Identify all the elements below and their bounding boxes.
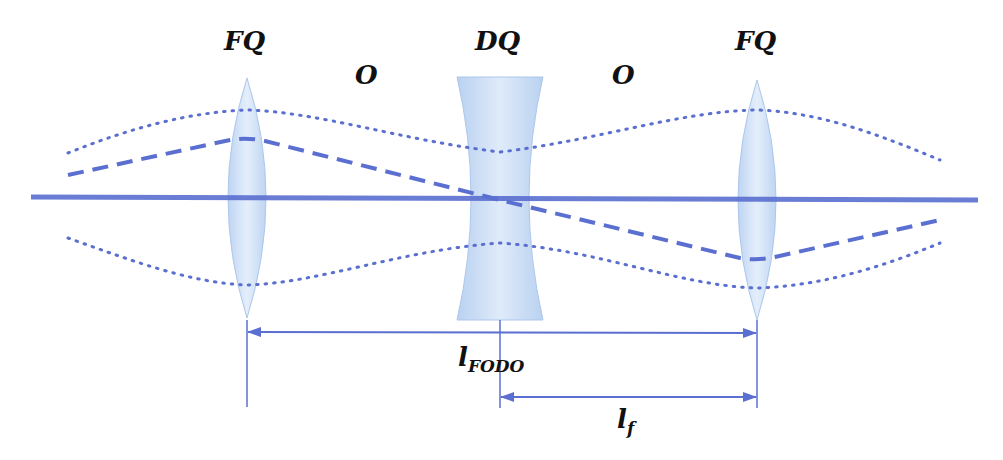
label-dq: DQ: [475, 26, 520, 56]
label-l-fodo-subscript: FODO: [468, 356, 524, 376]
diagram-canvas: [0, 0, 1003, 460]
beam-axis-line: [31, 197, 978, 200]
label-l-fodo: lFODO: [458, 342, 524, 376]
label-l-fodo-main: l: [458, 342, 468, 372]
label-fq-right: FQ: [735, 26, 776, 56]
label-l-f-main: l: [617, 404, 627, 434]
dimension-arrow-l-fodo: [248, 332, 756, 333]
label-l-f-subscript: f: [627, 418, 634, 438]
label-drift-left: O: [355, 60, 378, 90]
fodo-diagram: FQ O DQ O FQ lFODO lf: [0, 0, 1003, 460]
label-drift-right: O: [612, 60, 635, 90]
label-l-f: lf: [617, 404, 634, 438]
label-fq-left: FQ: [224, 26, 265, 56]
